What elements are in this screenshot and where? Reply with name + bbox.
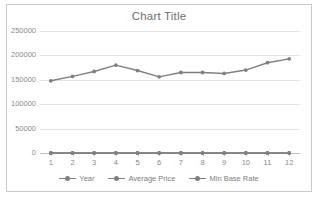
series-min-base-rate bbox=[49, 151, 291, 155]
data-point-marker bbox=[114, 151, 118, 155]
x-axis-tick-label: 4 bbox=[114, 159, 118, 167]
data-point-marker bbox=[114, 63, 118, 67]
data-point-marker bbox=[179, 71, 183, 75]
data-point-marker bbox=[287, 151, 291, 155]
x-axis-tick-label: 10 bbox=[242, 159, 250, 167]
x-axis-tick-label: 1 bbox=[49, 159, 53, 167]
y-axis-tick-label: 250000 bbox=[11, 27, 36, 35]
y-axis-tick-label: 150000 bbox=[11, 76, 36, 84]
legend-item-label: Min Base Rate bbox=[209, 174, 258, 183]
x-axis-tick-label: 8 bbox=[200, 159, 204, 167]
x-axis-tick-label: 9 bbox=[222, 159, 226, 167]
x-axis-tick-label: 3 bbox=[92, 159, 96, 167]
data-point-marker bbox=[201, 71, 205, 75]
x-axis-tick-label: 12 bbox=[285, 159, 293, 167]
legend-marker-icon bbox=[189, 175, 206, 182]
data-point-marker bbox=[179, 151, 183, 155]
data-point-marker bbox=[222, 151, 226, 155]
plot-area: 050000100000150000200000250000 123456789… bbox=[40, 31, 300, 153]
legend-item-label: Year bbox=[79, 174, 94, 183]
legend-item-label: Average Price bbox=[128, 174, 175, 183]
x-axis-tick-label: 5 bbox=[135, 159, 139, 167]
chart-container[interactable]: Chart Title 0500001000001500002000002500… bbox=[6, 4, 312, 192]
legend-marker-icon bbox=[59, 175, 76, 182]
data-point-marker bbox=[222, 72, 226, 76]
y-axis-tick-label: 200000 bbox=[11, 52, 36, 60]
data-point-marker bbox=[49, 151, 53, 155]
data-point-marker bbox=[71, 151, 75, 155]
y-axis-tick-label: 100000 bbox=[11, 100, 36, 108]
data-point-marker bbox=[244, 151, 248, 155]
legend-item-year[interactable]: Year bbox=[59, 174, 94, 183]
data-point-marker bbox=[244, 68, 248, 72]
data-point-marker bbox=[71, 74, 75, 78]
legend-marker-icon bbox=[108, 175, 125, 182]
data-point-marker bbox=[92, 70, 96, 74]
legend-item-min-base-rate[interactable]: Min Base Rate bbox=[189, 174, 258, 183]
data-point-marker bbox=[157, 151, 161, 155]
chart-legend: YearAverage PriceMin Base Rate bbox=[7, 174, 311, 183]
data-point-marker bbox=[92, 151, 96, 155]
data-point-marker bbox=[201, 151, 205, 155]
data-point-marker bbox=[287, 57, 291, 61]
series-line bbox=[51, 59, 289, 81]
chart-title: Chart Title bbox=[7, 10, 311, 22]
data-point-marker bbox=[49, 79, 53, 83]
y-axis-tick-label: 0 bbox=[32, 149, 36, 157]
y-axis-tick-label: 50000 bbox=[15, 125, 36, 133]
series-average-price bbox=[49, 57, 291, 83]
data-point-marker bbox=[266, 151, 270, 155]
data-point-marker bbox=[157, 75, 161, 79]
x-axis-tick-label: 6 bbox=[157, 159, 161, 167]
x-axis-tick-label: 7 bbox=[179, 159, 183, 167]
data-point-marker bbox=[136, 151, 140, 155]
data-point-marker bbox=[136, 69, 140, 73]
x-axis-tick-label: 11 bbox=[264, 159, 272, 167]
series-lines bbox=[40, 31, 300, 153]
data-point-marker bbox=[266, 61, 270, 65]
x-axis-tick-label: 2 bbox=[70, 159, 74, 167]
legend-item-average-price[interactable]: Average Price bbox=[108, 174, 175, 183]
